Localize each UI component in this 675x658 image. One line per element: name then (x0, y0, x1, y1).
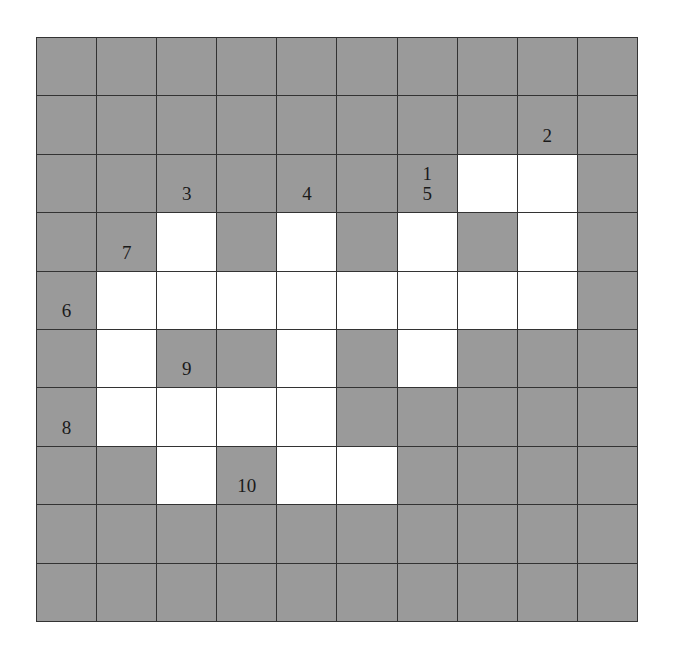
block-cell: 8 (37, 388, 96, 445)
block-cell (37, 447, 96, 504)
block-cell (578, 388, 637, 445)
block-cell (578, 213, 637, 270)
open-cell[interactable] (97, 330, 156, 387)
block-cell (97, 96, 156, 153)
block-cell (458, 388, 517, 445)
block-cell (458, 447, 517, 504)
block-cell (337, 96, 396, 153)
open-cell[interactable] (97, 388, 156, 445)
block-cell (518, 38, 577, 95)
open-cell[interactable] (458, 272, 517, 329)
block-cell (337, 505, 396, 562)
block-cell (217, 155, 276, 212)
open-cell[interactable] (398, 330, 457, 387)
block-cell (37, 330, 96, 387)
open-cell[interactable] (157, 388, 216, 445)
block-cell (37, 155, 96, 212)
block-cell (458, 330, 517, 387)
block-cell: 3 (157, 155, 216, 212)
open-cell[interactable] (518, 272, 577, 329)
open-cell[interactable] (398, 272, 457, 329)
open-cell[interactable] (277, 388, 336, 445)
clue-number: 10 (217, 476, 276, 496)
block-cell (518, 447, 577, 504)
clue-number: 2 (518, 126, 577, 146)
open-cell[interactable] (277, 330, 336, 387)
open-cell[interactable] (518, 213, 577, 270)
open-cell[interactable] (277, 272, 336, 329)
block-cell: 2 (518, 96, 577, 153)
block-cell (97, 564, 156, 621)
block-cell (458, 213, 517, 270)
open-cell[interactable] (458, 155, 517, 212)
block-cell (37, 213, 96, 270)
block-cell (398, 96, 457, 153)
block-cell (277, 96, 336, 153)
block-cell: 7 (97, 213, 156, 270)
block-cell (518, 330, 577, 387)
block-cell (398, 505, 457, 562)
open-cell[interactable] (217, 272, 276, 329)
open-cell[interactable] (97, 272, 156, 329)
block-cell (277, 564, 336, 621)
open-cell[interactable] (337, 272, 396, 329)
block-cell (398, 564, 457, 621)
clue-number: 8 (37, 418, 96, 438)
block-cell (37, 38, 96, 95)
block-cell (337, 330, 396, 387)
open-cell[interactable] (157, 213, 216, 270)
block-cell (578, 330, 637, 387)
block-cell (157, 38, 216, 95)
open-cell[interactable] (157, 447, 216, 504)
open-cell[interactable] (518, 155, 577, 212)
crossword-grid: 2341 5769810 (36, 37, 638, 622)
block-cell (578, 272, 637, 329)
block-cell (337, 564, 396, 621)
block-cell (277, 505, 336, 562)
block-cell (97, 38, 156, 95)
block-cell (217, 213, 276, 270)
block-cell (217, 38, 276, 95)
clue-number: 9 (157, 359, 216, 379)
block-cell (37, 564, 96, 621)
block-cell (217, 564, 276, 621)
block-cell (398, 447, 457, 504)
open-cell[interactable] (277, 213, 336, 270)
open-cell[interactable] (337, 447, 396, 504)
open-cell[interactable] (277, 447, 336, 504)
block-cell (398, 388, 457, 445)
open-cell[interactable] (398, 213, 457, 270)
block-cell (458, 564, 517, 621)
block-cell (157, 505, 216, 562)
block-cell (578, 96, 637, 153)
clue-number: 3 (157, 184, 216, 204)
block-cell (277, 38, 336, 95)
block-cell (37, 505, 96, 562)
block-cell (97, 155, 156, 212)
block-cell: 10 (217, 447, 276, 504)
block-cell: 9 (157, 330, 216, 387)
clue-number: 6 (37, 301, 96, 321)
block-cell (337, 388, 396, 445)
open-cell[interactable] (217, 388, 276, 445)
block-cell (337, 38, 396, 95)
block-cell: 4 (277, 155, 336, 212)
open-cell[interactable] (157, 272, 216, 329)
block-cell (578, 505, 637, 562)
block-cell (578, 564, 637, 621)
block-cell (337, 213, 396, 270)
block-cell (97, 505, 156, 562)
block-cell: 1 5 (398, 155, 457, 212)
block-cell (578, 38, 637, 95)
block-cell (337, 155, 396, 212)
block-cell (157, 96, 216, 153)
block-cell (217, 96, 276, 153)
block-cell (37, 96, 96, 153)
block-cell (458, 96, 517, 153)
block-cell (518, 388, 577, 445)
clue-number: 4 (277, 184, 336, 204)
block-cell (97, 447, 156, 504)
block-cell (578, 447, 637, 504)
block-cell (578, 155, 637, 212)
block-cell (157, 564, 216, 621)
